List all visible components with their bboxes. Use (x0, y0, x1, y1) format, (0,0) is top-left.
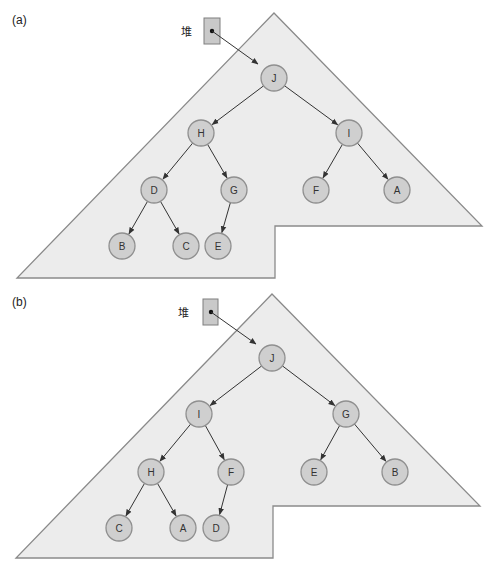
tree-node-E: E (301, 459, 327, 485)
tree-node-D: D (141, 177, 167, 203)
node-label: J (270, 353, 275, 364)
node-label: F (228, 467, 234, 478)
heap-diagram: (a) 堆 JHIDGFABCE (b) 堆 JIGHFEBCAD (0, 0, 491, 571)
panel-b: (b) 堆 JIGHFEBCAD (12, 294, 480, 558)
node-label: D (212, 523, 219, 534)
heap-label: 堆 (181, 26, 192, 39)
node-label: A (180, 523, 187, 534)
node-label: I (348, 128, 351, 139)
tree-node-H: H (138, 459, 164, 485)
node-label: B (119, 241, 126, 252)
tree-node-C: C (106, 515, 132, 541)
panel-a: (a) 堆 JHIDGFABCE (12, 13, 482, 278)
tree-node-C: C (173, 233, 199, 259)
tree-node-F: F (303, 177, 329, 203)
tree-node-G: G (221, 177, 247, 203)
node-label: I (198, 409, 201, 420)
node-label: J (272, 73, 277, 84)
node-label: G (230, 185, 238, 196)
heap-label: 堆 (178, 307, 189, 320)
tree-node-A: A (170, 515, 196, 541)
node-label: E (311, 467, 318, 478)
node-label: D (150, 185, 157, 196)
node-label: H (147, 467, 154, 478)
tree-node-G: G (333, 401, 359, 427)
node-label: C (182, 241, 189, 252)
heap-region (16, 294, 480, 558)
heap-region (17, 13, 482, 278)
node-label: C (115, 523, 122, 534)
tree-node-B: B (109, 233, 135, 259)
tree-node-J: J (261, 65, 287, 91)
tree-node-F: F (218, 459, 244, 485)
tree-node-E: E (205, 233, 231, 259)
panel-label: (a) (12, 13, 27, 27)
node-label: G (342, 409, 350, 420)
node-label: B (392, 467, 399, 478)
tree-node-J: J (259, 345, 285, 371)
tree-node-D: D (203, 515, 229, 541)
tree-node-I: I (186, 401, 212, 427)
tree-node-I: I (336, 120, 362, 146)
panel-label: (b) (12, 295, 27, 309)
node-label: F (313, 185, 319, 196)
tree-node-B: B (382, 459, 408, 485)
tree-node-H: H (188, 120, 214, 146)
node-label: A (394, 185, 401, 196)
node-label: E (215, 241, 222, 252)
tree-node-A: A (384, 177, 410, 203)
node-label: H (197, 128, 204, 139)
